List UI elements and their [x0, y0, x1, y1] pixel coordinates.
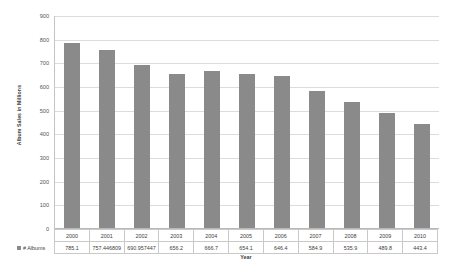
bar[interactable]	[99, 50, 115, 229]
bar[interactable]	[414, 124, 430, 229]
table-cell-value: 757.446809	[89, 242, 124, 254]
table-cell-value: 785.1	[55, 242, 90, 254]
table-cell-value: 489.8	[368, 242, 403, 254]
table-corner-cell	[14, 230, 55, 242]
table-row-years: 2000200120022003200420052006200720082009…	[14, 230, 438, 242]
y-axis-tick-label: 400	[40, 131, 49, 137]
table-cell-year: 2000	[55, 230, 90, 242]
bar[interactable]	[274, 76, 290, 229]
bar-slot	[299, 16, 334, 229]
table-cell-value: 690.957447	[124, 242, 159, 254]
bar[interactable]	[169, 74, 185, 229]
bar-slot	[55, 16, 90, 229]
plot-area	[54, 16, 439, 229]
bar-slot	[125, 16, 160, 229]
table-cell-value: 666.7	[194, 242, 229, 254]
table-cell-year: 2005	[229, 230, 264, 242]
table-cell-year: 2004	[194, 230, 229, 242]
bar[interactable]	[309, 91, 325, 229]
y-axis-tick-label: 300	[40, 155, 49, 161]
y-axis-tick-label: 700	[40, 60, 49, 66]
table-cell-year: 2003	[159, 230, 194, 242]
y-axis-tick-label: 100	[40, 202, 49, 208]
bars-layer	[55, 16, 439, 229]
bar[interactable]	[134, 65, 150, 229]
y-axis-tick-label: 900	[40, 13, 49, 19]
table-cell-value: 646.4	[263, 242, 298, 254]
table-cell-year: 2006	[263, 230, 298, 242]
bar-slot	[264, 16, 299, 229]
table-cell-year: 2008	[333, 230, 368, 242]
y-axis-title: Album Sales in Millions	[12, 0, 26, 230]
table-row-values: # Albums785.1757.446809690.957447656.266…	[14, 242, 438, 254]
table-cell-year: 2002	[124, 230, 159, 242]
y-axis-tick-label: 600	[40, 84, 49, 90]
bar-slot	[160, 16, 195, 229]
bar-slot	[195, 16, 230, 229]
bar-slot	[90, 16, 125, 229]
x-axis-title: Year	[54, 254, 438, 260]
bar-slot	[369, 16, 404, 229]
bar[interactable]	[379, 113, 395, 229]
bar-slot	[334, 16, 369, 229]
table-cell-year: 2001	[89, 230, 124, 242]
table-cell-value: 535.9	[333, 242, 368, 254]
table-cell-value: 654.1	[229, 242, 264, 254]
table-cell-year: 2010	[403, 230, 438, 242]
y-axis-tick-label: 200	[40, 179, 49, 185]
bar-slot	[230, 16, 265, 229]
y-axis-tick-labels: 0100200300400500600700800900	[26, 16, 52, 229]
y-axis-tick-label: 500	[40, 108, 49, 114]
bar-chart: Album Sales in Millions 0100200300400500…	[0, 0, 464, 273]
y-axis-title-text: Album Sales in Millions	[16, 85, 22, 145]
bar[interactable]	[204, 71, 220, 229]
legend-swatch-icon	[17, 246, 21, 250]
legend-entry: # Albums	[14, 242, 55, 254]
legend-label: # Albums	[23, 245, 45, 251]
table-cell-value: 656.2	[159, 242, 194, 254]
y-axis-tick-label: 800	[40, 37, 49, 43]
table-cell-year: 2007	[298, 230, 333, 242]
table-cell-value: 443.4	[403, 242, 438, 254]
bar[interactable]	[239, 74, 255, 229]
bar[interactable]	[344, 102, 360, 229]
bar-slot	[404, 16, 439, 229]
bar[interactable]	[64, 43, 80, 229]
data-table: 2000200120022003200420052006200720082009…	[14, 229, 438, 254]
table-cell-year: 2009	[368, 230, 403, 242]
table-cell-value: 584.9	[298, 242, 333, 254]
